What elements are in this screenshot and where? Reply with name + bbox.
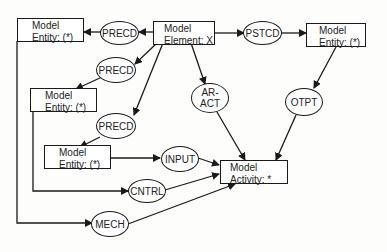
model-entity-top-left-box: Model Entity: (*)	[17, 18, 84, 42]
box-line1: Model	[319, 25, 365, 37]
model-entity-mid-box: Model Entity: (*)	[30, 88, 97, 112]
precd-top-relation: PRECD	[100, 21, 139, 45]
box-line2: Entity: (*)	[32, 32, 83, 44]
box-line1: Model	[59, 147, 110, 159]
relation-label: MECH	[95, 219, 124, 230]
relation-label: AR- ACT	[200, 87, 220, 109]
relation-label: PRECD	[98, 121, 133, 132]
box-line2: Activity: *	[230, 174, 287, 186]
ar-act-relation: AR- ACT	[191, 83, 229, 113]
relation-label: OTPT	[291, 97, 318, 108]
precd-low-relation: PRECD	[96, 113, 136, 139]
mech-relation: MECH	[91, 211, 129, 237]
box-line1: Model	[45, 90, 96, 102]
precd-mid-relation: PRECD	[96, 57, 136, 83]
otpt-relation: OTPT	[285, 88, 323, 116]
input-relation: INPUT	[161, 146, 199, 172]
box-line2: Entity: (*)	[59, 159, 110, 171]
box-line2: Entity: (*)	[319, 37, 365, 49]
cntrl-relation: CNTRL	[128, 179, 166, 203]
model-entity-top-right-box: Model Entity: (*)	[306, 23, 366, 47]
box-line1: Model	[230, 162, 287, 174]
relation-label: CNTRL	[130, 186, 163, 197]
model-entity-low-box: Model Entity: (*)	[44, 145, 111, 169]
relation-label: PRECD	[98, 65, 133, 76]
relation-label: PSTCD	[246, 28, 280, 39]
relation-label: INPUT	[165, 154, 195, 165]
relation-label: PRECD	[102, 28, 137, 39]
box-line1: Model	[164, 23, 214, 35]
model-element-box: Model Element: X	[153, 21, 215, 45]
box-line2: Entity: (*)	[45, 102, 96, 114]
diagram-canvas: Model Element: X Model Entity: (*) Model…	[0, 0, 387, 252]
box-line2: Element: X	[164, 35, 214, 47]
box-line1: Model	[32, 20, 83, 32]
pstcd-relation: PSTCD	[243, 21, 282, 45]
model-activity-box: Model Activity: *	[220, 160, 288, 184]
